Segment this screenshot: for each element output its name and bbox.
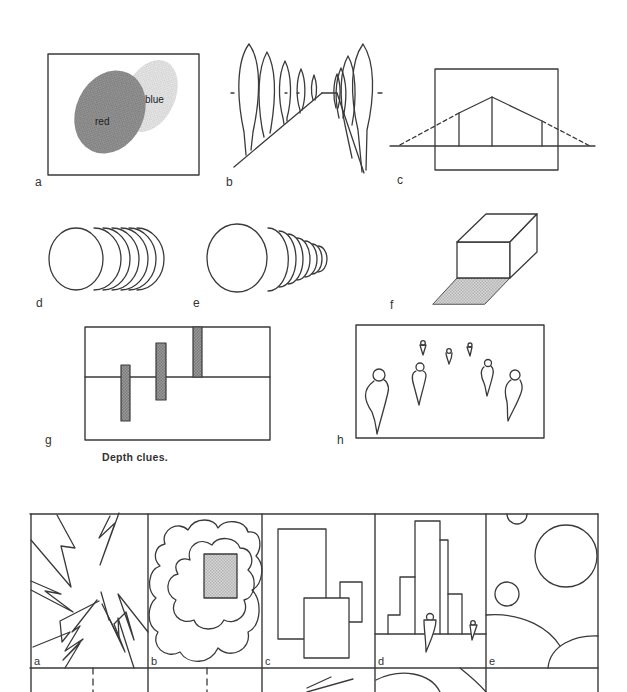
figure-f-box-shadow bbox=[433, 214, 537, 304]
figure-label-g: g bbox=[45, 433, 52, 447]
grid-label-b: b bbox=[151, 655, 157, 667]
grid-label-d: d bbox=[378, 655, 384, 667]
grid-row2-partial bbox=[93, 668, 486, 692]
grid-cell-b-clouds bbox=[149, 520, 262, 661]
figure-label-b: b bbox=[226, 175, 233, 189]
figure-d-equal-circles bbox=[49, 228, 164, 290]
grid-cell-d-skyline bbox=[375, 521, 486, 652]
grid-cell-c-rectangles bbox=[278, 529, 362, 658]
figure-label-d: d bbox=[36, 296, 43, 310]
grid-label-e: e bbox=[489, 655, 495, 667]
grid-label-a: a bbox=[34, 655, 41, 667]
figure-label-a: a bbox=[35, 175, 42, 189]
figure-h-diminishing-figures bbox=[356, 325, 544, 438]
grid-cell-e-circles bbox=[486, 514, 598, 668]
figure-c-perspective-building bbox=[390, 69, 595, 170]
bottom-grid bbox=[30, 513, 598, 692]
depth-clues-page: red blue a b c d e f g h a b c d e bbox=[0, 0, 627, 692]
figure-e-diminishing-circles bbox=[207, 224, 327, 292]
figure-label-e: e bbox=[193, 296, 200, 310]
figure-label-f: f bbox=[390, 298, 394, 312]
figure-a-overlap-ovals bbox=[48, 51, 199, 175]
figure-caption: Depth clues. bbox=[102, 451, 168, 463]
grid-label-c: c bbox=[265, 655, 271, 667]
label-red: red bbox=[95, 116, 109, 127]
figure-b-tree-avenue bbox=[231, 44, 382, 173]
label-blue: blue bbox=[145, 94, 164, 105]
figure-label-c: c bbox=[397, 173, 403, 187]
figure-label-h: h bbox=[337, 433, 344, 447]
grid-cell-a-zigzags bbox=[31, 513, 148, 668]
figure-g-bars-horizon bbox=[85, 327, 270, 440]
